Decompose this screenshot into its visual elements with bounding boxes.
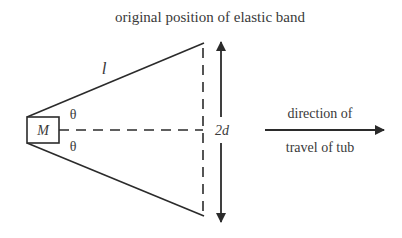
direction-label-line2: travel of tub — [286, 140, 354, 155]
mass-label: M — [36, 123, 50, 138]
title-label: original position of elastic band — [115, 9, 305, 25]
length-label: l — [102, 59, 107, 78]
elastic-band-diagram: original position of elastic band M θ θ … — [0, 0, 402, 238]
direction-label-line1: direction of — [288, 106, 353, 121]
elastic-band-lower — [27, 143, 204, 216]
angle-theta-top: θ — [70, 107, 77, 122]
angle-theta-bottom: θ — [70, 139, 77, 154]
elastic-band-upper — [27, 43, 204, 117]
width-label: 2d — [215, 123, 230, 138]
